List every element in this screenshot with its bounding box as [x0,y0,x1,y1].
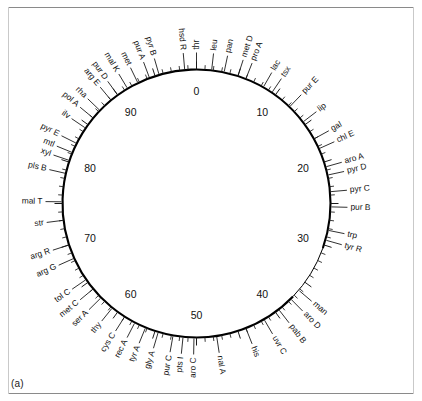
gene-label: arg R [29,246,52,262]
gene-label: tyr A [126,343,142,363]
gene-label: hsd R [177,28,189,51]
gene-label: ilv [60,108,73,121]
chromosome-ring [62,70,330,338]
gene-label: gly A [142,349,157,370]
gene-label: uvr C [270,334,289,356]
scale-label: 60 [125,288,137,300]
gene-label: leu [208,38,219,51]
gene-label: pur E [299,74,320,96]
scale-label: 30 [297,232,309,244]
gene-label: tyr R [343,240,363,254]
gene-label: pts I [174,356,186,373]
scale-label: 70 [84,232,96,244]
gene-label: trp [347,229,359,241]
gene-label: aro C [187,357,197,378]
tick-marks [55,62,339,346]
scale-label: 20 [297,162,309,174]
gene-label: pyr E [39,121,61,139]
gene-label: thy [88,319,103,335]
figure-panel: hsd Rthrleupanmet Dpro Alactsxpur Elipga… [0,0,422,401]
gene-label: his [249,345,262,359]
scale-label: 10 [256,106,268,118]
gene-label: pab B [288,322,310,346]
gene-label: pyr C [349,182,370,194]
scale-labels: 0102030405060708090 [84,85,309,321]
gene-label: nal A [215,355,228,375]
gene-labels: hsd Rthrleupanmet Dpro Alactsxpur Elipga… [22,28,371,378]
gene-label: lip [315,100,328,113]
circular-genetic-map: hsd Rthrleupanmet Dpro Alactsxpur Elipga… [0,0,422,401]
gene-label: arg G [34,261,57,279]
panel-label: (a) [11,378,24,389]
scale-label: 50 [191,309,203,321]
scale-label: 0 [194,85,200,97]
gene-label: pur B [350,202,371,213]
scale-label: 90 [125,106,137,118]
gene-label: gal [329,119,344,133]
gene-label: pur C [160,354,173,376]
gene-label: pan [223,38,236,54]
gene-label: mal T [22,196,43,206]
scale-label: 80 [84,162,96,174]
gene-label: thr [191,40,201,50]
gene-label: str [34,217,45,228]
scale-label: 40 [256,288,268,300]
gene-label: pls B [27,159,48,173]
gene-label: met [119,50,134,68]
